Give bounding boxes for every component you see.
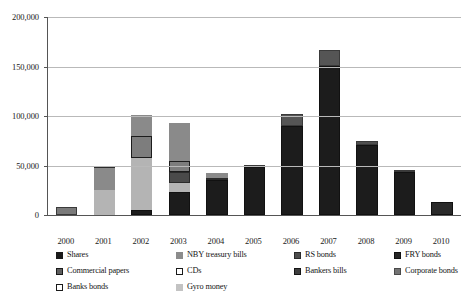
legend-item[interactable]: Gyro money: [176, 279, 294, 295]
legend-item[interactable]: Banks bonds: [56, 279, 176, 295]
legend-label: Banks bonds: [67, 283, 108, 291]
plot-wrapper: 200,000150,000100,00050,0000 20002001200…: [0, 10, 467, 225]
bar-segment[interactable]: [281, 126, 302, 215]
bar-stack[interactable]: [431, 202, 452, 215]
bar-stack[interactable]: [169, 123, 190, 215]
legend-item[interactable]: Shares: [56, 247, 176, 263]
legend-item[interactable]: Bankers bills: [294, 263, 394, 279]
legend-label: RS bonds: [305, 251, 336, 259]
y-tick-label: 150,000: [12, 62, 39, 71]
legend-label: Commercial papers: [67, 267, 129, 275]
legend-label: CDs: [187, 267, 201, 275]
bar-segment[interactable]: [56, 207, 77, 215]
gridline: [48, 166, 461, 167]
bar-segment[interactable]: [169, 172, 190, 183]
legend-label: FRY bonds: [405, 251, 441, 259]
bar-segment[interactable]: [131, 136, 152, 158]
legend-label: NBY treasury bills: [187, 251, 247, 259]
legend-item[interactable]: FRY bonds: [394, 247, 467, 263]
plot-area: [47, 17, 461, 216]
legend-item[interactable]: CDs: [176, 263, 294, 279]
bar-segment[interactable]: [319, 66, 340, 215]
gridline: [48, 116, 461, 117]
y-tick-mark: [44, 215, 48, 216]
y-axis: 200,000150,000100,00050,0000: [0, 10, 44, 215]
legend-item[interactable]: Corporate bonds: [394, 263, 467, 279]
bar-stack[interactable]: [319, 50, 340, 215]
legend-label: Bankers bills: [305, 267, 347, 275]
bar-stack[interactable]: [56, 207, 77, 215]
y-tick-label: 200,000: [12, 13, 39, 22]
bar-stack[interactable]: [356, 141, 377, 215]
bar-stack[interactable]: [394, 170, 415, 215]
y-tick-label: 0: [35, 211, 39, 220]
legend-swatch-icon: [294, 268, 301, 275]
bar-segment[interactable]: [206, 180, 227, 215]
gridline: [48, 67, 461, 68]
bar-segment[interactable]: [244, 167, 265, 215]
bar-segment[interactable]: [356, 145, 377, 215]
legend-swatch-icon: [56, 252, 63, 259]
y-tick-label: 100,000: [12, 112, 39, 121]
legend-swatch-icon: [56, 268, 63, 275]
legend-label: Shares: [67, 251, 88, 259]
bar-segment[interactable]: [431, 202, 452, 215]
legend-item[interactable]: NBY treasury bills: [176, 247, 294, 263]
stacked-bar-chart: 200,000150,000100,00050,0000 20002001200…: [0, 0, 467, 299]
legend-label: Gyro money: [187, 283, 227, 291]
chart-legend: SharesNBY treasury billsRS bondsFRY bond…: [56, 247, 456, 295]
legend-swatch-icon: [56, 284, 63, 291]
legend-item[interactable]: Commercial papers: [56, 263, 176, 279]
bar-segment[interactable]: [131, 115, 152, 136]
bar-segment[interactable]: [169, 192, 190, 215]
bar-stack[interactable]: [206, 173, 227, 215]
legend-swatch-icon: [176, 284, 183, 291]
legend-swatch-icon: [394, 268, 401, 275]
bar-segment[interactable]: [131, 210, 152, 215]
gridline: [48, 17, 461, 18]
bar-segment[interactable]: [169, 123, 190, 161]
y-tick-mark: [44, 166, 48, 167]
bar-stack[interactable]: [244, 165, 265, 215]
y-tick-label: 50,000: [16, 161, 39, 170]
legend-swatch-icon: [176, 268, 183, 275]
y-tick-mark: [44, 116, 48, 117]
legend-swatch-icon: [294, 252, 301, 259]
bar-segment[interactable]: [169, 183, 190, 192]
y-tick-mark: [44, 17, 48, 18]
bar-stack[interactable]: [94, 166, 115, 215]
bar-segment[interactable]: [394, 172, 415, 215]
bar-segment[interactable]: [319, 50, 340, 66]
bar-segment[interactable]: [94, 168, 115, 190]
legend-swatch-icon: [394, 252, 401, 259]
bar-segment[interactable]: [94, 190, 115, 215]
legend-label: Corporate bonds: [405, 267, 458, 275]
legend-item[interactable]: RS bonds: [294, 247, 394, 263]
legend-swatch-icon: [176, 252, 183, 259]
bar-segment[interactable]: [169, 161, 190, 173]
y-tick-mark: [44, 67, 48, 68]
